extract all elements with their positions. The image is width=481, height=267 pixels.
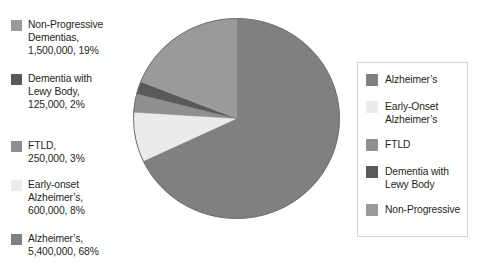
chart-canvas: Non-Progressive Dementias, 1,500,000, 19… [0, 0, 481, 267]
callout-ftld: FTLD, 250,000, 3% [11, 139, 85, 165]
pie-slice-group [133, 18, 339, 218]
legend-item-dementia-with-lewy-body: Dementia with Lewy Body [366, 165, 449, 191]
callout-text-dementia-with-lewy-body: Dementia with Lewy Body, 125,000, 2% [28, 72, 92, 112]
callout-swatch-alzheimers [11, 234, 22, 245]
callout-text-alzheimers: Alzheimer’s, 5,400,000, 68% [28, 232, 99, 258]
legend-swatch-non-progressive [366, 204, 378, 216]
legend-label-dementia-with-lewy-body: Dementia with Lewy Body [385, 165, 449, 191]
callout-non-progressive-dementias: Non-Progressive Dementias, 1,500,000, 19… [11, 18, 103, 58]
callout-swatch-non-progressive-dementias [11, 20, 22, 31]
callout-text-ftld: FTLD, 250,000, 3% [28, 139, 85, 165]
legend-label-ftld: FTLD [385, 138, 410, 151]
callout-dementia-with-lewy-body: Dementia with Lewy Body, 125,000, 2% [11, 72, 92, 112]
pie-chart [133, 18, 340, 219]
legend-swatch-alzheimers [366, 74, 378, 86]
callout-early-onset-alzheimers: Early-onset Alzheimer’s, 600,000, 8% [11, 178, 85, 218]
pie-svg [133, 18, 340, 219]
legend-item-early-onset-alzheimers: Early-Onset Alzheimer’s [366, 100, 438, 126]
legend-box: Alzheimer’s Early-Onset Alzheimer’s FTLD… [357, 62, 468, 237]
callout-swatch-early-onset-alzheimers [11, 180, 22, 191]
callout-alzheimers: Alzheimer’s, 5,400,000, 68% [11, 232, 99, 258]
callout-text-non-progressive-dementias: Non-Progressive Dementias, 1,500,000, 19… [28, 18, 103, 58]
legend-swatch-ftld [366, 139, 378, 151]
legend-label-early-onset-alzheimers: Early-Onset Alzheimer’s [385, 100, 438, 126]
callout-swatch-dementia-with-lewy-body [11, 74, 22, 85]
callout-text-early-onset-alzheimers: Early-onset Alzheimer’s, 600,000, 8% [28, 178, 85, 218]
callout-label-group: Non-Progressive Dementias, 1,500,000, 19… [0, 0, 140, 267]
legend-item-alzheimers: Alzheimer’s [366, 73, 437, 86]
legend-item-ftld: FTLD [366, 138, 410, 151]
callout-swatch-ftld [11, 141, 22, 152]
legend-swatch-early-onset-alzheimers [366, 101, 378, 113]
legend-swatch-dementia-with-lewy-body [366, 166, 378, 178]
legend-item-non-progressive: Non-Progressive [366, 203, 460, 216]
legend-label-non-progressive: Non-Progressive [385, 203, 460, 216]
legend-label-alzheimers: Alzheimer’s [385, 73, 437, 86]
